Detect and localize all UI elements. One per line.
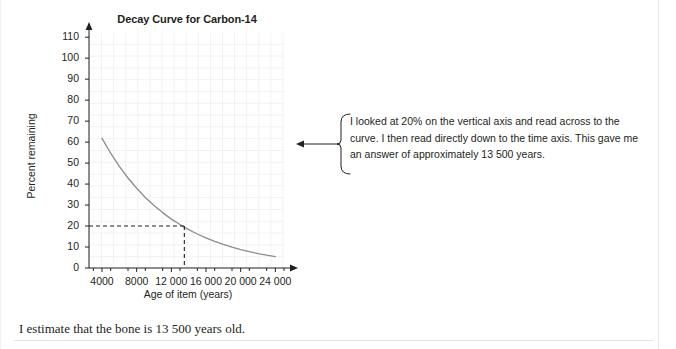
x-tick-24000: 24 000: [245, 275, 305, 287]
callout-leader-arrow: [296, 113, 356, 175]
y-tick-50: 50: [49, 156, 79, 168]
y-tick-80: 80: [49, 93, 79, 105]
y-tick-10: 10: [49, 240, 79, 252]
y-tick-60: 60: [49, 135, 79, 147]
y-tick-110: 110: [49, 30, 79, 42]
page-bottom-rule: [14, 340, 654, 341]
callout-annotation: I looked at 20% on the vertical axis and…: [336, 113, 646, 175]
y-tick-100: 100: [49, 51, 79, 63]
y-tick-90: 90: [49, 72, 79, 84]
y-tick-20: 20: [49, 219, 79, 231]
conclusion-sentence: I estimate that the bone is 13 500 years…: [19, 321, 245, 337]
chart-axes-and-curve: [0, 0, 320, 300]
callout-text: I looked at 20% on the vertical axis and…: [350, 113, 642, 163]
y-tick-70: 70: [49, 114, 79, 126]
y-tick-0: 0: [49, 261, 79, 273]
y-tick-30: 30: [49, 198, 79, 210]
y-tick-40: 40: [49, 177, 79, 189]
decay-curve-chart: Decay Curve for Carbon-14 Percent remain…: [0, 0, 320, 300]
page-right-border: [658, 0, 659, 349]
